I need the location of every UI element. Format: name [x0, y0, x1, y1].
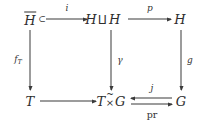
arrow-label-p: p	[147, 4, 153, 13]
node-t-times-g-right: G	[115, 94, 126, 109]
arrowhead-down-icon	[109, 86, 113, 91]
arrowhead-down-icon	[179, 86, 183, 91]
arrow-label-f-t-subscript: T	[18, 58, 22, 66]
arrowhead-right-icon	[83, 17, 88, 21]
arrowhead-down-icon	[28, 86, 32, 91]
amalg-icon: ⨿	[97, 13, 109, 27]
node-t: T	[26, 95, 35, 108]
commutative-diagram: H H⨿H H T T~×G G ⊂ i p fT γ g	[0, 0, 207, 126]
node-t-times-g: T~×G	[96, 95, 125, 108]
tilde-times-icon: ~×	[105, 98, 115, 108]
node-t-times-g-left: T	[96, 94, 105, 109]
arrowhead-right-icon	[168, 102, 173, 106]
arrow-p	[128, 19, 171, 20]
arrow-i	[46, 19, 87, 20]
arrow-label-j: j	[151, 84, 154, 93]
node-h-amalg-h-right: H	[109, 12, 121, 27]
arrow-g	[181, 30, 182, 90]
arrow-label-f-t: fT	[14, 55, 22, 65]
arrow-gamma	[111, 30, 112, 90]
arrow-t-to-t-times-g	[40, 101, 96, 102]
arrow-label-gamma: γ	[117, 56, 122, 65]
arrow-f-t	[30, 30, 31, 90]
arrow-label-g: g	[187, 56, 193, 65]
node-h-bar-label: H	[24, 12, 36, 27]
node-h-bar: H	[24, 12, 36, 27]
arrow-label-i: i	[66, 4, 69, 13]
node-g-label: G	[176, 94, 187, 109]
arrowhead-right-icon	[167, 17, 172, 21]
node-h-label: H	[174, 12, 186, 27]
arrowhead-left-icon	[130, 96, 135, 100]
arrow-j	[131, 98, 172, 99]
arrowhead-right-icon	[92, 99, 97, 103]
node-g: G	[176, 95, 187, 108]
arrow-pr	[131, 104, 172, 105]
node-t-label: T	[26, 94, 35, 109]
node-h-amalg-h: H⨿H	[85, 13, 120, 26]
hook-icon-inclusion: ⊂	[38, 15, 46, 24]
node-h: H	[174, 13, 186, 26]
arrow-label-pr: pr	[147, 110, 158, 120]
